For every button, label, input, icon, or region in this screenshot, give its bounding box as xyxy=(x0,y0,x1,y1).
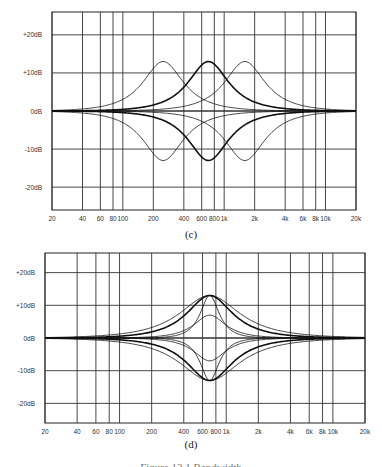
x-tick-label: 60 xyxy=(92,428,100,435)
response-curve xyxy=(45,338,365,361)
x-tick-label: 80 xyxy=(109,215,117,222)
x-tick-label: 800 xyxy=(210,428,221,435)
y-tick-label: +10dB xyxy=(16,302,35,309)
chart-d-eq-bandwidth-variations: 204060801002004006008001k2k4k6k8k10k20k+… xyxy=(16,253,371,435)
x-tick-label: 6k xyxy=(306,428,314,435)
x-tick-label: 40 xyxy=(79,215,87,222)
response-curve xyxy=(52,111,356,160)
response-curve xyxy=(52,62,356,111)
y-tick-label: -10dB xyxy=(18,367,35,374)
response-curve xyxy=(52,111,356,160)
x-tick-label: 60 xyxy=(97,215,105,222)
chart-c-eq-boost-cut-frequencies: 204060801002004006008001k2k4k6k8k10k20k+… xyxy=(23,12,362,222)
x-tick-label: 20 xyxy=(48,215,56,222)
y-tick-label: +20dB xyxy=(23,31,42,38)
x-tick-label: 100 xyxy=(114,428,125,435)
x-tick-label: 20k xyxy=(351,215,362,222)
y-tick-label: +20dB xyxy=(16,269,35,276)
x-tick-label: 600 xyxy=(196,215,207,222)
response-curve xyxy=(52,111,356,160)
response-curve xyxy=(52,62,356,111)
figure-caption-clipped: Figure 13.1 Bandwidth xyxy=(0,459,382,467)
x-tick-label: 8k xyxy=(319,428,327,435)
x-tick-label: 10k xyxy=(320,215,331,222)
x-tick-label: 20 xyxy=(41,428,49,435)
x-tick-label: 80 xyxy=(106,428,114,435)
x-tick-label: 800 xyxy=(209,215,220,222)
x-tick-label: 2k xyxy=(251,215,259,222)
x-tick-label: 600 xyxy=(197,428,208,435)
x-tick-label: 4k xyxy=(287,428,295,435)
y-tick-label: 0dB xyxy=(30,108,42,115)
y-tick-label: +10dB xyxy=(23,69,42,76)
x-tick-label: 40 xyxy=(73,428,81,435)
x-tick-label: 20k xyxy=(360,428,371,435)
x-tick-label: 1k xyxy=(223,428,231,435)
x-tick-label: 400 xyxy=(178,215,189,222)
x-tick-label: 200 xyxy=(146,428,157,435)
x-tick-label: 1k xyxy=(221,215,229,222)
response-curve xyxy=(52,62,356,111)
x-tick-label: 200 xyxy=(148,215,159,222)
x-tick-label: 2k xyxy=(255,428,263,435)
x-tick-label: 6k xyxy=(300,215,308,222)
y-tick-label: -10dB xyxy=(25,146,42,153)
x-tick-label: 4k xyxy=(282,215,290,222)
chart-c-caption: (c) xyxy=(0,228,382,240)
y-tick-label: -20dB xyxy=(18,400,35,407)
chart-d-caption: (d) xyxy=(0,438,382,450)
y-tick-label: 0dB xyxy=(23,335,35,342)
x-tick-label: 10k xyxy=(328,428,339,435)
x-tick-label: 400 xyxy=(178,428,189,435)
y-tick-label: -20dB xyxy=(25,184,42,191)
x-tick-label: 8k xyxy=(312,215,320,222)
x-tick-label: 100 xyxy=(117,215,128,222)
response-curve xyxy=(45,315,365,338)
